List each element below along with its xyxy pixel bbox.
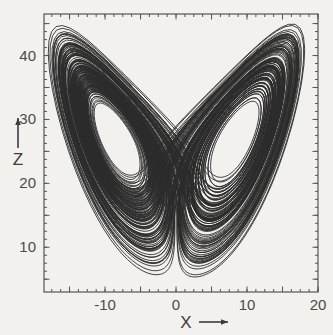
x-axis-arrow-icon (199, 319, 228, 325)
y-tick-label: 20 (19, 174, 36, 191)
x-tick-label: -10 (94, 296, 116, 313)
x-arrow-head (221, 319, 228, 325)
trajectory-group (48, 24, 304, 277)
x-axis-title: X (180, 313, 191, 332)
y-axis-title: Z (13, 150, 23, 169)
plot-canvas: -100102010203040XZ (0, 0, 333, 335)
x-tick-label: 20 (310, 296, 327, 313)
x-tick-label: 0 (172, 296, 180, 313)
trajectory-path (48, 24, 304, 277)
lorenz-attractor-figure: -100102010203040XZ (0, 0, 333, 335)
y-tick-label: 30 (19, 110, 36, 127)
y-tick-label: 40 (19, 47, 36, 64)
y-tick-label: 10 (19, 238, 36, 255)
x-tick-label: 10 (239, 296, 256, 313)
